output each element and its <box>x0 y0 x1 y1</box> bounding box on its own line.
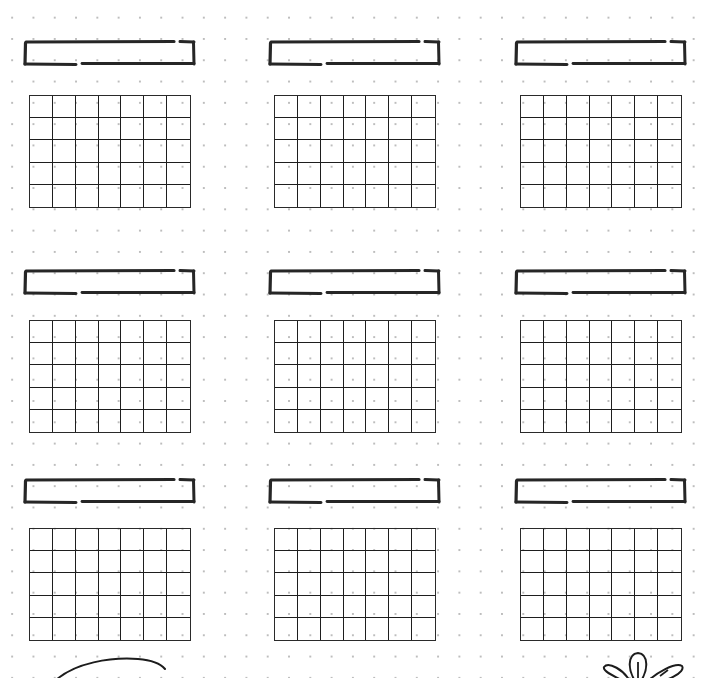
day-cell[interactable] <box>590 410 613 432</box>
day-cell[interactable] <box>30 388 53 410</box>
day-cell[interactable] <box>30 343 53 365</box>
day-cell[interactable] <box>567 596 590 618</box>
day-cell[interactable] <box>167 96 190 118</box>
day-cell[interactable] <box>298 185 321 207</box>
day-cell[interactable] <box>344 596 367 618</box>
day-cell[interactable] <box>53 118 76 140</box>
day-cell[interactable] <box>521 573 544 595</box>
day-cell[interactable] <box>144 596 167 618</box>
day-cell[interactable] <box>298 163 321 185</box>
day-cell[interactable] <box>366 388 389 410</box>
day-cell[interactable] <box>344 388 367 410</box>
day-cell[interactable] <box>76 410 99 432</box>
day-cell[interactable] <box>366 529 389 551</box>
day-cell[interactable] <box>53 96 76 118</box>
day-cell[interactable] <box>53 410 76 432</box>
day-cell[interactable] <box>53 388 76 410</box>
day-cell[interactable] <box>144 551 167 573</box>
day-cell[interactable] <box>658 163 681 185</box>
day-cell[interactable] <box>298 140 321 162</box>
day-cell[interactable] <box>144 343 167 365</box>
day-cell[interactable] <box>567 573 590 595</box>
day-cell[interactable] <box>144 118 167 140</box>
month-title-box[interactable] <box>24 269 196 295</box>
day-cell[interactable] <box>612 365 635 387</box>
day-cell[interactable] <box>612 573 635 595</box>
day-cell[interactable] <box>298 96 321 118</box>
day-cell[interactable] <box>275 343 298 365</box>
day-cell[interactable] <box>612 343 635 365</box>
day-cell[interactable] <box>99 343 122 365</box>
day-cell[interactable] <box>366 185 389 207</box>
day-cell[interactable] <box>167 140 190 162</box>
day-cell[interactable] <box>590 140 613 162</box>
day-cell[interactable] <box>144 185 167 207</box>
day-cell[interactable] <box>612 118 635 140</box>
day-cell[interactable] <box>567 551 590 573</box>
day-cell[interactable] <box>121 529 144 551</box>
month-title-box[interactable] <box>24 40 196 66</box>
day-cell[interactable] <box>412 321 435 343</box>
day-cell[interactable] <box>99 596 122 618</box>
day-cell[interactable] <box>412 96 435 118</box>
day-cell[interactable] <box>144 388 167 410</box>
day-cell[interactable] <box>658 596 681 618</box>
day-cell[interactable] <box>99 140 122 162</box>
day-cell[interactable] <box>389 410 412 432</box>
day-cell[interactable] <box>635 596 658 618</box>
day-cell[interactable] <box>612 410 635 432</box>
day-cell[interactable] <box>275 618 298 640</box>
day-cell[interactable] <box>344 185 367 207</box>
day-cell[interactable] <box>76 573 99 595</box>
day-cell[interactable] <box>167 365 190 387</box>
day-cell[interactable] <box>389 365 412 387</box>
day-cell[interactable] <box>521 529 544 551</box>
day-cell[interactable] <box>167 410 190 432</box>
day-cell[interactable] <box>275 118 298 140</box>
day-cell[interactable] <box>366 551 389 573</box>
day-cell[interactable] <box>275 410 298 432</box>
day-cell[interactable] <box>144 96 167 118</box>
day-cell[interactable] <box>298 365 321 387</box>
day-cell[interactable] <box>76 388 99 410</box>
day-cell[interactable] <box>99 118 122 140</box>
day-cell[interactable] <box>612 96 635 118</box>
day-cell[interactable] <box>612 596 635 618</box>
day-cell[interactable] <box>366 618 389 640</box>
day-cell[interactable] <box>658 365 681 387</box>
day-cell[interactable] <box>590 343 613 365</box>
day-cell[interactable] <box>658 618 681 640</box>
day-cell[interactable] <box>121 185 144 207</box>
day-cell[interactable] <box>53 573 76 595</box>
day-cell[interactable] <box>389 163 412 185</box>
day-cell[interactable] <box>167 618 190 640</box>
day-cell[interactable] <box>99 185 122 207</box>
day-cell[interactable] <box>53 185 76 207</box>
day-cell[interactable] <box>544 573 567 595</box>
day-cell[interactable] <box>275 529 298 551</box>
day-cell[interactable] <box>389 551 412 573</box>
day-cell[interactable] <box>635 365 658 387</box>
day-cell[interactable] <box>590 551 613 573</box>
day-cell[interactable] <box>412 618 435 640</box>
day-cell[interactable] <box>321 96 344 118</box>
day-cell[interactable] <box>344 410 367 432</box>
day-cell[interactable] <box>412 529 435 551</box>
day-cell[interactable] <box>544 388 567 410</box>
day-cell[interactable] <box>366 596 389 618</box>
day-cell[interactable] <box>658 410 681 432</box>
day-cell[interactable] <box>76 321 99 343</box>
day-cell[interactable] <box>635 185 658 207</box>
day-cell[interactable] <box>344 365 367 387</box>
day-cell[interactable] <box>567 618 590 640</box>
day-cell[interactable] <box>344 118 367 140</box>
day-cell[interactable] <box>612 185 635 207</box>
day-cell[interactable] <box>30 573 53 595</box>
day-cell[interactable] <box>53 618 76 640</box>
day-cell[interactable] <box>389 96 412 118</box>
day-cell[interactable] <box>99 365 122 387</box>
day-cell[interactable] <box>121 321 144 343</box>
day-cell[interactable] <box>544 118 567 140</box>
day-cell[interactable] <box>412 118 435 140</box>
day-cell[interactable] <box>412 343 435 365</box>
